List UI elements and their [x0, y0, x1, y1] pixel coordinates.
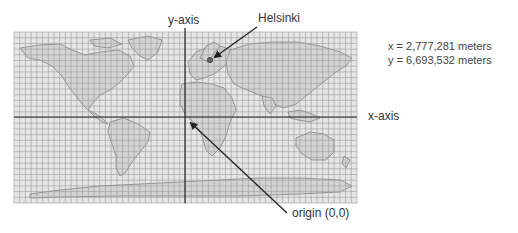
projected-coordinate-figure: y-axis x-axis Helsinki origin (0,0) x = … — [0, 0, 518, 233]
helsinki-label: Helsinki — [258, 11, 300, 25]
x-coordinate: x = 2,777,281 meters — [388, 39, 492, 53]
y-axis-label: y-axis — [168, 13, 199, 27]
x-axis-label: x-axis — [368, 109, 399, 123]
world-map-grid — [0, 0, 518, 233]
y-coordinate: y = 6,693,532 meters — [388, 53, 492, 67]
origin-label: origin (0,0) — [292, 206, 349, 220]
helsinki-point — [207, 57, 212, 62]
helsinki-coordinates: x = 2,777,281 meters y = 6,693,532 meter… — [388, 39, 492, 67]
